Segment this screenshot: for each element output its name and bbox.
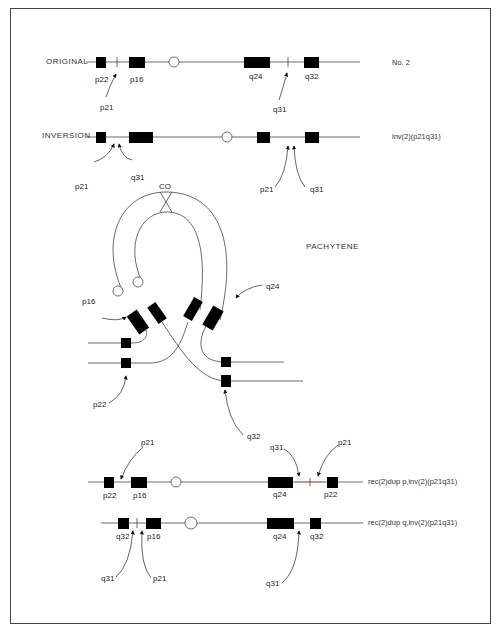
side-label-rec-dup-q: rec(2)dup q,inv(2)(p21q31) [368,518,458,527]
centromere-icon [185,517,197,529]
original-title: ORIGINAL [46,57,88,66]
label-q31: q31 [310,185,324,194]
label-p16: p16 [133,491,147,500]
row-rec-dup-q: q32 p16 q31 p21 q24 q32 q31 rec(2)dup q,… [101,517,458,588]
band-q32 [304,57,319,68]
centromere-icon [222,132,232,142]
arrow-p21 [121,447,143,479]
band-p22 [121,358,131,368]
label-q32: q32 [310,532,324,541]
arrow-p22 [109,376,126,403]
side-label-rec-dup-p: rec(2)dup p,inv(2)(p21q31) [368,477,458,486]
arrow-q24 [236,285,262,298]
band-q32 [310,518,321,529]
band-p16 [129,57,145,68]
band-q24 [244,57,270,68]
band-q32 [305,132,319,143]
band-q32 [221,357,231,367]
centromere-icon [169,57,179,67]
label-p16: p16 [147,532,161,541]
label-p16: p16 [82,297,96,306]
arrow-p21 [275,146,288,187]
label-q24: q24 [273,532,287,541]
pachytene-title: PACHYTENE [306,242,359,251]
pachytene-loop: CO PACHYTENE p16 q24 p22 q32 [82,182,359,441]
label-q32: q32 [116,532,130,541]
band-q32 [118,518,129,529]
label-q24: q24 [249,72,263,81]
band-p16 [146,518,161,529]
row-inversion: INVERSION p21 q31 p21 q31 inv(2)(p21q31) [42,131,441,194]
side-label-original: No. 2 [392,58,410,67]
centromere-icon [171,477,181,487]
row-original: ORIGINAL p22 p16 q24 q32 p21 q31 No. 2 [46,57,410,114]
label-p21: p21 [153,574,167,583]
arrow-q31 [294,146,305,187]
row-rec-dup-p: p21 p22 p16 q31 p21 q24 p22 rec(2)dup p,… [88,438,458,500]
label-p21: p21 [100,103,114,112]
arrow-q32 [225,390,243,435]
chromosome-inversion-diagram: ORIGINAL p22 p16 q24 q32 p21 q31 No. 2 I… [0,0,501,632]
arrow-q31 [284,449,299,476]
band-p22 [327,477,338,488]
side-label-inversion: inv(2)(p21q31) [392,132,441,141]
arrow-q31 [279,73,287,100]
label-p22: p22 [93,400,107,409]
label-p22: p22 [324,490,338,499]
band-q24 [267,518,294,529]
band-p22 [104,477,114,488]
label-q24: q24 [273,490,287,499]
inversion-title: INVERSION [42,131,91,140]
label-q31: q31 [270,443,284,452]
band-p16 [129,132,153,143]
arrow-p16 [102,317,126,320]
label-p22: p22 [95,75,109,84]
label-q31: q31 [101,574,115,583]
label-q31: q31 [273,105,287,114]
label-q31: q31 [131,173,145,182]
label-q24: q24 [266,282,280,291]
centromere-icon [113,286,123,296]
label-q32: q32 [305,72,319,81]
label-p22: p22 [103,491,117,500]
band-p22 [121,338,131,348]
band-q32 [221,375,231,387]
label-q32: q32 [247,432,261,441]
label-p21: p21 [75,182,89,191]
label-p21: p21 [260,185,274,194]
band-p22 [96,132,106,143]
label-q31: q31 [266,579,280,588]
label-p16: p16 [130,75,144,84]
arrow-p21 [318,445,338,476]
arrow-p21 [94,144,114,162]
label-p21: p21 [141,438,155,447]
crossover-label: CO [159,182,171,191]
arrow-q31 [119,144,132,160]
band-p22 [96,57,106,68]
label-p21: p21 [338,438,352,447]
band-q24 [268,477,293,488]
centromere-icon [133,277,143,287]
band-p16 [147,302,167,324]
band-q24 [257,132,270,143]
band-p16 [131,477,147,488]
